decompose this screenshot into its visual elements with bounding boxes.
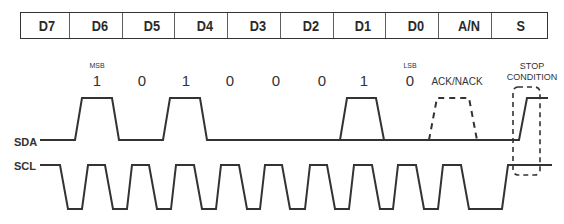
bit-value-d4: 0 xyxy=(226,72,234,89)
scl-label: SCL xyxy=(14,160,36,172)
sda-waveform xyxy=(40,98,548,140)
msb-label: MSB xyxy=(89,62,105,69)
lsb-label: LSB xyxy=(403,62,417,69)
bit-value-d5: 1 xyxy=(182,72,190,89)
stop-label-line1: STOP xyxy=(520,61,544,71)
bit-value-d1: 1 xyxy=(360,72,368,89)
bit-value-d2: 0 xyxy=(318,72,326,89)
sda-waveform-bit-d1 xyxy=(340,98,384,140)
bit-value-d3: 0 xyxy=(272,72,280,89)
sda-label: SDA xyxy=(14,136,37,148)
stop-condition-label: CONDITION xyxy=(507,72,558,82)
bit-value-d0: 0 xyxy=(406,72,414,89)
bit-value-d6: 0 xyxy=(138,72,146,89)
ack-nack-label: ACK/NACK xyxy=(431,76,482,87)
ack-nack-dashed-pulse xyxy=(429,98,477,140)
scl-waveform xyxy=(40,165,552,209)
timing-diagram: MSB 1 0 1 0 0 0 1 LSB 0 ACK/NACK STOP CO… xyxy=(0,0,564,224)
bit-value-d7: 1 xyxy=(93,72,101,89)
